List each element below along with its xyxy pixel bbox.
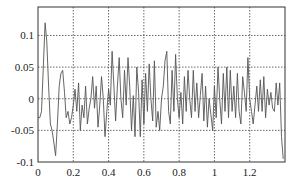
y-tick-label: -0.05: [11, 124, 34, 136]
line-chart: 00.20.40.60.811.2 -0.1-0.0500.050.1: [0, 0, 298, 181]
y-tick-label: 0.05: [15, 61, 35, 73]
x-tick-label: 1: [212, 166, 218, 178]
x-tick-label: 0: [35, 166, 41, 178]
x-tick-label: 0.2: [66, 166, 80, 178]
y-axis-ticks: -0.1-0.0500.050.1: [11, 29, 34, 168]
grid-lines: [38, 7, 285, 162]
y-tick-label: 0: [29, 93, 35, 105]
x-tick-label: 0.4: [102, 166, 116, 178]
x-tick-label: 0.8: [172, 166, 186, 178]
y-tick-label: -0.1: [17, 156, 34, 168]
y-tick-label: 0.1: [20, 29, 34, 41]
signal-line: [38, 23, 283, 159]
x-tick-label: 1.2: [243, 166, 257, 178]
plot-frame: [38, 7, 285, 162]
x-tick-label: 0.6: [137, 166, 151, 178]
x-axis-ticks: 00.20.40.60.811.2: [35, 166, 256, 178]
